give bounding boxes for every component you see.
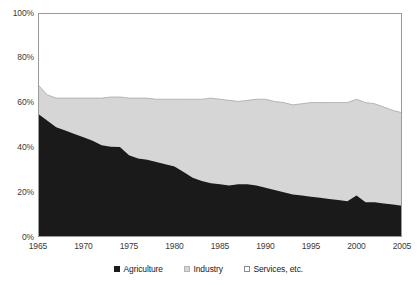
plot-svg (38, 13, 402, 237)
legend-swatch-icon (114, 266, 120, 272)
y-tick-label: 80% (17, 52, 34, 62)
legend: AgricultureIndustryServices, etc. (0, 262, 417, 276)
legend-swatch-icon (244, 266, 250, 272)
x-tick-label: 2005 (386, 241, 417, 251)
legend-item[interactable]: Industry (184, 264, 223, 274)
legend-item[interactable]: Agriculture (114, 264, 163, 274)
legend-item-label: Industry (193, 264, 222, 274)
x-tick-label: 1980 (159, 241, 191, 251)
plot-area (38, 13, 402, 237)
y-tick-label: 20% (17, 187, 34, 197)
legend-item-label: Services, etc. (253, 264, 303, 274)
x-tick-label: 1975 (113, 241, 145, 251)
legend-item[interactable]: Services, etc. (244, 264, 303, 274)
stacked-area-chart: 0%20%40%60%80%100% 196519701975198019851… (0, 0, 417, 285)
y-tick-label: 60% (17, 97, 34, 107)
x-tick-label: 1965 (22, 241, 54, 251)
y-tick-label: 40% (17, 142, 34, 152)
x-tick-label: 2000 (341, 241, 373, 251)
x-tick-label: 1995 (295, 241, 327, 251)
legend-item-label: Agriculture (123, 264, 163, 274)
x-axis: 196519701975198019851990199520002005 (0, 239, 417, 257)
x-tick-label: 1970 (68, 241, 100, 251)
x-tick-label: 1990 (250, 241, 282, 251)
x-tick-label: 1985 (204, 241, 236, 251)
y-tick-label: 100% (13, 8, 34, 18)
legend-swatch-icon (184, 266, 190, 272)
